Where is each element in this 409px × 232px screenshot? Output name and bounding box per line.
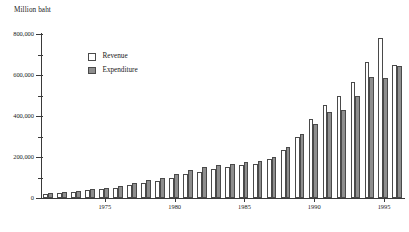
bar-expenditure [313,124,318,198]
bar-expenditure [286,147,291,198]
x-axis-tick-label: 1975 [90,203,120,210]
bar-expenditure [244,162,249,198]
bar-expenditure [341,110,346,198]
legend-item-expenditure: Expenditure [88,67,138,75]
bar-expenditure [48,193,53,198]
x-axis-tick [244,198,245,202]
x-axis-line [41,198,405,199]
bar-expenditure [188,170,193,198]
bar-expenditure [118,186,123,198]
x-axis-tick [105,198,106,202]
y-axis-tick-label: 200,000 [0,153,34,160]
bar-expenditure [355,96,360,199]
bar-expenditure [160,178,165,199]
bar-chart: Million baht 0200,000400,000600,000800,0… [0,0,409,232]
bar-expenditure [202,167,207,198]
y-axis-tick-label: 600,000 [0,71,34,78]
x-axis-tick-label: 1990 [299,203,329,210]
bar-expenditure [327,112,332,198]
x-axis-tick [384,198,385,202]
bar-expenditure [146,180,151,198]
bar-expenditure [383,78,388,198]
legend-item-revenue: Revenue [88,53,138,61]
y-axis-tick-label: 400,000 [0,112,34,119]
legend-swatch-expenditure [88,67,96,75]
bar-expenditure [230,164,235,198]
bar-expenditure [76,191,81,198]
chart-legend: Revenue Expenditure [88,53,138,80]
x-axis-tick [175,198,176,202]
bar-expenditure [300,134,305,198]
x-axis-tick-label: 1980 [160,203,190,210]
bar-expenditure [174,174,179,198]
bar-expenditure [132,183,137,198]
y-axis-tick [36,198,43,199]
bar-expenditure [397,66,402,198]
bar-expenditure [90,189,95,198]
y-axis-tick-label: 800,000 [0,30,34,37]
bar-expenditure [104,188,109,198]
y-axis-title: Million baht [14,6,51,14]
legend-label-expenditure: Expenditure [103,67,138,74]
bar-expenditure [258,161,263,198]
x-axis-tick [314,198,315,202]
bar-expenditure [62,192,67,198]
x-axis-tick-label: 1985 [229,203,259,210]
bar-expenditure [216,165,221,198]
bar-expenditure [272,157,277,198]
legend-swatch-revenue [88,53,96,61]
legend-label-revenue: Revenue [103,53,128,60]
x-axis-tick-label: 1995 [369,203,399,210]
y-axis-tick-label: 0 [0,194,34,201]
bar-expenditure [369,77,374,198]
